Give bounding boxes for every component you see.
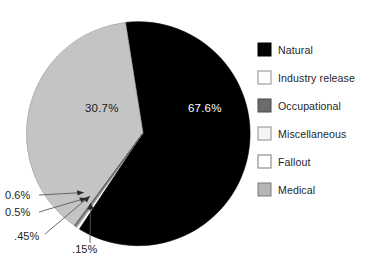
legend-item-occupational[interactable]: Occupational xyxy=(258,99,341,112)
callout-label-occupational: .45% xyxy=(14,230,40,242)
callout-label-industry-release: .15% xyxy=(72,243,98,255)
pie-chart-figure: 30.7% 67.6% 0.6% 0.5% .45% .15% Na xyxy=(0,0,370,263)
legend-swatch-medical xyxy=(258,183,271,196)
chart-canvas: 30.7% 67.6% 0.6% 0.5% .45% .15% Na xyxy=(0,0,370,263)
callout-label-fallout: 0.6% xyxy=(5,189,31,201)
legend-item-natural[interactable]: Natural xyxy=(258,43,313,56)
legend-swatch-miscellaneous xyxy=(258,127,271,140)
legend-label-natural: Natural xyxy=(278,44,313,56)
legend-item-industry-release[interactable]: Industry release xyxy=(258,71,355,84)
callout-label-miscellaneous: 0.5% xyxy=(5,206,31,218)
legend-swatch-fallout xyxy=(258,155,271,168)
legend-swatch-natural xyxy=(258,43,271,56)
legend-swatch-industry-release xyxy=(258,71,271,84)
legend-label-miscellaneous: Miscellaneous xyxy=(278,128,346,140)
legend-item-miscellaneous[interactable]: Miscellaneous xyxy=(258,127,346,140)
legend-item-medical[interactable]: Medical xyxy=(258,183,315,196)
legend-label-industry-release: Industry release xyxy=(278,72,355,84)
legend: Natural Industry release Occupational Mi… xyxy=(258,43,355,196)
pie-label-natural: 67.6% xyxy=(188,102,222,114)
legend-label-fallout: Fallout xyxy=(278,156,311,168)
legend-swatch-occupational xyxy=(258,99,271,112)
pie-label-medical: 30.7% xyxy=(85,102,119,114)
legend-label-occupational: Occupational xyxy=(278,100,341,112)
legend-item-fallout[interactable]: Fallout xyxy=(258,155,311,168)
pie-slices xyxy=(26,22,250,246)
legend-label-medical: Medical xyxy=(278,184,315,196)
